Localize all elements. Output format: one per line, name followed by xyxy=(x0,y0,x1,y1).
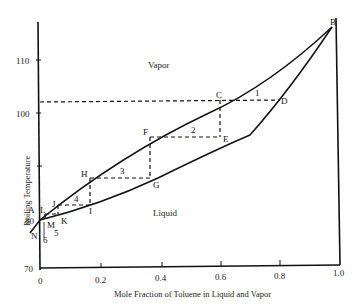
point-label-n: N xyxy=(31,231,38,241)
phase-diagram-chart: 110 100 80 70 0 0.2 0.4 0.6 0.8 1.0 Mole… xyxy=(0,0,359,305)
point-label-g: G xyxy=(153,180,160,190)
liquid-region-label: Liquid xyxy=(153,208,177,218)
point-label-e: E xyxy=(223,134,229,144)
point-label-a: A xyxy=(28,205,35,215)
x-tick-label: 1.0 xyxy=(333,268,345,278)
point-label-i: I xyxy=(89,206,92,216)
stage-label-5: 5 xyxy=(54,228,59,238)
x-axis xyxy=(40,265,340,268)
x-tick-label: 0.8 xyxy=(274,271,286,281)
point-label-b: B xyxy=(330,17,336,27)
x-tick-label: 0.2 xyxy=(95,275,106,285)
y-tick-label: 100 xyxy=(16,109,30,119)
y-tick-label: 110 xyxy=(16,56,30,66)
point-label-l: L xyxy=(40,205,46,215)
y-axis-title: Boiling Temperature xyxy=(22,155,32,226)
point-label-h: H xyxy=(81,169,88,179)
y-axis xyxy=(38,22,40,270)
y-tick-label: 70 xyxy=(24,264,34,274)
stage-label-2: 2 xyxy=(191,125,196,135)
vapor-region-label: Vapor xyxy=(148,60,170,70)
point-label-j: J xyxy=(52,199,56,209)
point-label-c: C xyxy=(216,90,222,100)
x-axis-title: Mole Fraction of Toluene in Liquid and V… xyxy=(114,289,271,299)
point-label-d: D xyxy=(281,96,288,106)
x-tick-label: 0.6 xyxy=(215,272,227,282)
stage-label-6: 6 xyxy=(43,235,48,245)
stage-label-4: 4 xyxy=(74,194,79,204)
point-label-f: F xyxy=(143,127,148,137)
x-tick-label: 0.4 xyxy=(155,273,167,283)
stage-label-1: 1 xyxy=(255,88,260,98)
x-tick-label: 0 xyxy=(38,276,43,286)
point-label-k: K xyxy=(61,216,68,226)
stage-label-3: 3 xyxy=(120,166,125,176)
right-border xyxy=(336,18,340,265)
